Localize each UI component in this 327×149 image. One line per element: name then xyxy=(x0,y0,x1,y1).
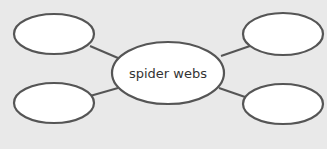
diagram-canvas: spider webs xyxy=(0,0,327,149)
connector-top-right xyxy=(221,46,250,56)
center-label: spider webs xyxy=(129,66,207,81)
node-top-left xyxy=(14,14,94,54)
connector-bottom-right xyxy=(219,88,248,98)
connector-bottom-left xyxy=(90,88,118,96)
connector-top-left xyxy=(90,46,118,58)
node-bottom-right xyxy=(243,84,323,124)
spider-web-diagram: spider webs xyxy=(0,0,327,149)
node-top-right xyxy=(243,13,323,55)
node-bottom-left xyxy=(14,83,94,123)
